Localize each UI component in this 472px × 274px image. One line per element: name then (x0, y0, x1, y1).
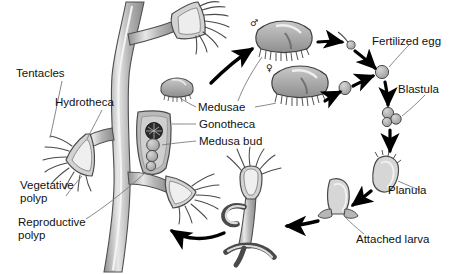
label-fertilized-egg: Fertilized egg (372, 35, 441, 47)
male-symbol: ♂ (250, 18, 258, 28)
label-medusa-bud: Medusa bud (199, 135, 262, 147)
arrow-zygote-to-blastula (385, 82, 388, 105)
label-planula: Planula (388, 184, 427, 196)
arrow-sperm-to-zygote (355, 51, 375, 68)
label-reproductive-polyp-line1: Reproductive (18, 216, 86, 228)
leader-blastula (402, 95, 425, 116)
label-blastula: Blastula (398, 83, 440, 95)
label-attached-larva: Attached larva (356, 233, 430, 245)
larva-foot-left (318, 209, 332, 218)
medusa-bud (146, 161, 155, 170)
arrow-young-polyp-to-colony (172, 231, 224, 238)
arrow-male-to-sperm (318, 41, 342, 42)
arrow-planula-to-larva (353, 191, 371, 205)
label-reproductive-polyp-line2: polyp (18, 229, 46, 241)
label-medusae: Medusae (198, 101, 245, 113)
medusa-male: ♂ (250, 18, 312, 61)
polyp-top-right (171, 2, 229, 54)
stolon-branch (236, 248, 244, 265)
label-vegetative-polyp-line1: Vegetative (20, 179, 74, 191)
attached-larva (318, 179, 358, 219)
leader-medusae-female (255, 103, 276, 107)
arrow-larva-to-young-polyp (287, 221, 318, 226)
larva-foot-right (344, 209, 358, 218)
leader-medusae-small (180, 98, 196, 107)
leader-fertilized-egg (389, 45, 409, 67)
label-vegetative-polyp-line2: polyp (20, 192, 48, 204)
fertilized-egg (375, 65, 388, 78)
reproductive-polyp (137, 111, 171, 174)
label-gonotheca: Gonotheca (199, 118, 256, 130)
blastula (382, 107, 401, 126)
life-cycle-diagram: ♂ ♀ (0, 0, 472, 274)
label-hydrotheca: Hydrotheca (55, 96, 114, 108)
leader-tentacles (50, 81, 62, 138)
arrow-egg-to-zygote (353, 76, 373, 86)
female-symbol: ♀ (266, 63, 273, 73)
medusa-female: ♀ (266, 63, 328, 106)
young-polyp (224, 147, 281, 265)
medusa-bud (147, 139, 160, 152)
arrow-female-to-egg (325, 92, 340, 101)
medusa-bud (146, 150, 157, 161)
medusa-free-small (161, 78, 193, 102)
leader-medusae-male (238, 57, 262, 101)
arrow-colony-to-medusae (211, 49, 252, 83)
polyp-lower-right (165, 174, 220, 224)
young-polyp-hydranth (244, 169, 258, 195)
label-tentacles: Tentacles (16, 67, 65, 79)
leader-attached-larva (344, 216, 364, 234)
